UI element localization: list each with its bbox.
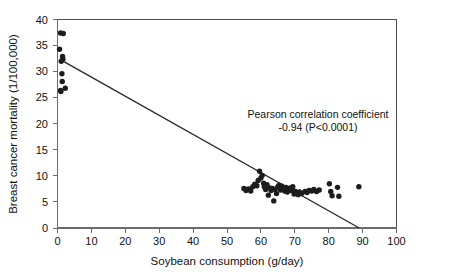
data-point: [335, 185, 340, 190]
data-point: [60, 79, 65, 84]
plot-canvas: 0 5 10 15 20 25 30 35 40 0 10 20 30 40 5…: [0, 0, 455, 277]
annotation-line-1: Pearson correlation coefficient: [247, 108, 388, 120]
x-tick-label: 70: [289, 235, 301, 247]
data-point: [63, 86, 68, 91]
data-point: [266, 192, 271, 197]
x-tick-label: 60: [255, 235, 267, 247]
data-point: [329, 193, 334, 198]
y-tick-label: 25: [36, 91, 48, 103]
x-tick-label: 40: [187, 235, 199, 247]
x-tick-label: 10: [85, 235, 97, 247]
data-point: [59, 71, 64, 76]
y-tick-marks: [53, 20, 58, 229]
data-point: [59, 59, 64, 64]
x-tick-label: 0: [54, 235, 60, 247]
y-tick-label: 20: [36, 118, 48, 130]
y-axis-title: Breast cancer mortality (1/100,000): [7, 34, 19, 214]
annotation-line-2: -0.94 (P<0.0001): [278, 121, 357, 133]
data-point: [271, 198, 276, 203]
y-tick-label: 0: [42, 222, 48, 234]
y-tick-label: 15: [36, 144, 48, 156]
x-tick-label: 20: [119, 235, 131, 247]
y-tick-label: 35: [36, 39, 48, 51]
y-tick-label: 5: [42, 196, 48, 208]
x-tick-label: 30: [153, 235, 165, 247]
data-point: [260, 173, 265, 178]
y-tick-labels: 0 5 10 15 20 25 30 35 40: [36, 14, 48, 235]
y-tick-label: 10: [36, 170, 48, 182]
data-point: [58, 89, 63, 94]
x-tick-labels: 0 10 20 30 40 50 60 70 80 90 100: [54, 235, 405, 247]
data-point: [57, 47, 62, 52]
x-tick-label: 80: [323, 235, 335, 247]
data-point: [327, 181, 332, 186]
data-point: [356, 184, 361, 189]
data-point: [274, 191, 279, 196]
x-tick-label: 90: [356, 235, 368, 247]
y-tick-label: 40: [36, 14, 48, 26]
data-point: [317, 187, 322, 192]
scatter-plot-figure: 0 5 10 15 20 25 30 35 40 0 10 20 30 40 5…: [0, 0, 455, 277]
trend-line-layer: [61, 60, 359, 228]
y-tick-label: 30: [36, 65, 48, 77]
regression-trend-line: [61, 60, 359, 228]
data-point: [336, 194, 341, 199]
x-tick-label: 100: [387, 235, 405, 247]
x-axis-title: Soybean consumption (g/day): [151, 255, 304, 267]
x-tick-label: 50: [221, 235, 233, 247]
data-point: [61, 31, 66, 36]
x-tick-marks: [58, 228, 397, 233]
data-point: [290, 184, 295, 189]
data-point: [254, 183, 259, 188]
